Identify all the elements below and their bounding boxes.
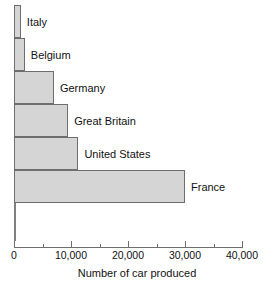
x-axis-tick-band (14, 240, 242, 248)
bar-label: United States (84, 148, 150, 159)
bar-label: France (191, 181, 225, 192)
bar (14, 170, 185, 203)
bar (14, 104, 68, 137)
x-axis-tick (43, 244, 44, 248)
x-axis-tick-label: 0 (11, 250, 17, 261)
bar-label: Germany (60, 82, 105, 93)
bar-row: Belgium (14, 38, 242, 71)
bar-label: Great Britain (74, 115, 136, 126)
x-axis-tick (14, 241, 15, 248)
bar-row: Great Britain (14, 104, 242, 137)
x-axis-tick (214, 244, 215, 248)
x-axis-tick (157, 244, 158, 248)
bar (14, 71, 54, 104)
x-axis-tick-label: 10,000 (55, 250, 87, 261)
bar (14, 5, 21, 38)
bar-row: Germany (14, 71, 242, 104)
x-axis-tick (71, 241, 72, 248)
bar-chart: ItalyBelgiumGermanyGreat BritainUnited S… (0, 0, 274, 289)
bar-label: Italy (27, 16, 47, 27)
x-axis-title: Number of car produced (0, 268, 274, 279)
bar-row: Italy (14, 5, 242, 38)
bar (14, 38, 25, 71)
bar-row: United States (14, 137, 242, 170)
x-axis-tick (128, 241, 129, 248)
bar-label: Belgium (31, 49, 71, 60)
bar (14, 137, 78, 170)
bar-row: France (14, 170, 242, 203)
x-axis-tick-label: 30,000 (169, 250, 201, 261)
x-axis-tick-label: 40,000 (226, 250, 258, 261)
x-axis-tick (185, 241, 186, 248)
x-axis-tick-label: 20,000 (112, 250, 144, 261)
x-axis-tick (100, 244, 101, 248)
plot-area: ItalyBelgiumGermanyGreat BritainUnited S… (14, 5, 242, 240)
x-axis-tick (242, 241, 243, 248)
